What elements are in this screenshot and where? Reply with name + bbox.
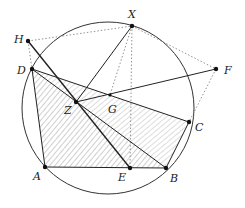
point-E xyxy=(128,166,132,170)
point-B xyxy=(164,166,168,170)
point-H xyxy=(26,39,30,43)
label-G: G xyxy=(108,103,117,116)
label-A: A xyxy=(32,170,41,183)
point-X xyxy=(130,24,134,28)
point-A xyxy=(43,165,47,169)
point-Z xyxy=(74,100,78,104)
label-B: B xyxy=(169,172,178,185)
label-H: H xyxy=(13,33,24,46)
label-Z: Z xyxy=(63,104,72,117)
label-X: X xyxy=(127,8,137,21)
label-C: C xyxy=(195,121,204,134)
dotted-XF xyxy=(132,26,216,69)
label-D: D xyxy=(16,64,26,77)
point-G xyxy=(108,93,111,96)
point-D xyxy=(30,67,34,71)
label-E: E xyxy=(117,171,126,184)
point-F xyxy=(214,67,218,71)
label-F: F xyxy=(223,64,232,77)
dotted-XG xyxy=(110,26,132,95)
hatched-regions xyxy=(32,69,189,168)
dotted-HX xyxy=(28,26,132,41)
point-C xyxy=(187,120,191,124)
geometry-diagram: ABCDEFGHXZ xyxy=(0,0,245,208)
